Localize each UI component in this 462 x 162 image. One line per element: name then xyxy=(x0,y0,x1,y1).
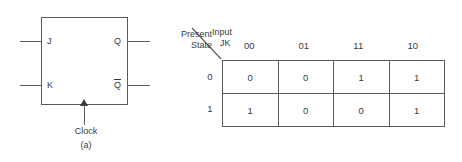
table-header-present-line2: State xyxy=(160,40,212,51)
input-wire-j xyxy=(20,41,42,42)
column-header-01: 01 xyxy=(277,40,332,51)
table-row: 1 0 0 1 xyxy=(223,94,445,127)
next-state-table: 0 0 1 1 1 0 0 1 xyxy=(222,60,445,127)
row-header-0: 0 xyxy=(202,71,218,82)
clock-wire xyxy=(84,105,85,125)
pin-label-k: K xyxy=(47,80,53,90)
column-header-00: 00 xyxy=(222,40,277,51)
output-wire-q-bar xyxy=(128,85,150,86)
q-bar-overbar-text: Q xyxy=(114,79,121,90)
pin-label-q-bar: Q xyxy=(114,79,121,90)
table-cell: 1 xyxy=(389,61,445,94)
column-header-11: 11 xyxy=(331,40,386,51)
figure-root: J K Q Q Clock (a) Input JK Present State… xyxy=(0,0,462,162)
table-cell: 1 xyxy=(389,94,445,127)
clock-label: Clock xyxy=(62,126,110,136)
table-cell: 0 xyxy=(223,61,279,94)
table-header-present-state: Present State xyxy=(160,29,212,51)
table-cell: 0 xyxy=(278,94,334,127)
table-cell: 1 xyxy=(223,94,279,127)
table-cell: 0 xyxy=(334,94,390,127)
panel-next-state-table: Input JK Present State 00 01 11 10 0 1 0… xyxy=(190,0,462,162)
pin-label-q: Q xyxy=(114,36,121,46)
table-cell: 1 xyxy=(334,61,390,94)
flipflop-body xyxy=(41,17,128,105)
output-wire-q xyxy=(128,41,150,42)
table-header-input-line1: Input xyxy=(212,27,232,37)
panel-jk-flipflop-diagram: J K Q Q Clock (a) xyxy=(0,0,190,162)
input-wire-k xyxy=(20,85,42,86)
table-cell: 0 xyxy=(278,61,334,94)
row-header-1: 1 xyxy=(202,103,218,114)
column-header-10: 10 xyxy=(386,40,441,51)
caption-panel-a: (a) xyxy=(60,140,112,150)
pin-label-j: J xyxy=(47,36,52,46)
table-row: 0 0 1 1 xyxy=(223,61,445,94)
table-header-present-line1: Present xyxy=(160,29,212,40)
